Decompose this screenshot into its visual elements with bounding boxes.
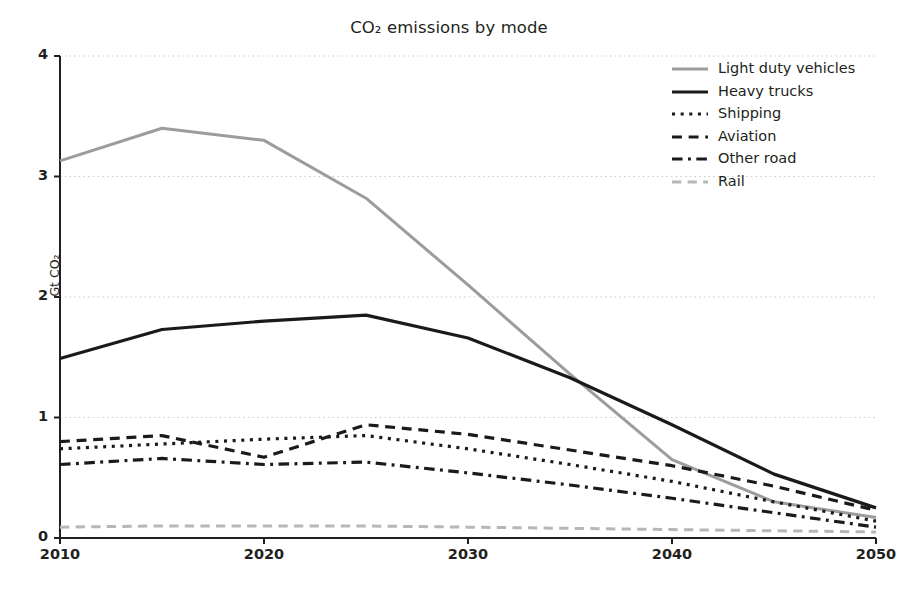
legend-line-swatch-icon xyxy=(672,174,708,188)
legend-item-label: Aviation xyxy=(718,129,776,144)
series-line-aviation xyxy=(60,425,876,511)
chart-figure: CO₂ emissions by mode Gt CO₂ 01234 20102… xyxy=(0,0,898,590)
y-tick-label: 2 xyxy=(18,287,48,303)
y-tick-label: 0 xyxy=(18,528,48,544)
y-tick-label: 1 xyxy=(18,408,48,424)
legend-line-swatch-icon xyxy=(672,106,708,120)
legend-line-swatch-icon xyxy=(672,129,708,143)
x-tick-label: 2050 xyxy=(841,546,898,562)
legend-item-shipping[interactable]: Shipping xyxy=(672,102,887,125)
legend-line-swatch-icon xyxy=(672,84,708,98)
legend-item-label: Other road xyxy=(718,151,796,166)
legend-item-rail[interactable]: Rail xyxy=(672,170,887,193)
legend-line-swatch-icon xyxy=(672,61,708,75)
series-line-rail xyxy=(60,526,876,532)
x-tick-label: 2030 xyxy=(433,546,503,562)
x-tick-label: 2020 xyxy=(229,546,299,562)
legend-item-label: Light duty vehicles xyxy=(718,61,855,76)
legend-item-heavy-trucks[interactable]: Heavy trucks xyxy=(672,80,887,103)
series-line-heavy-trucks xyxy=(60,315,876,508)
x-tick-label: 2010 xyxy=(25,546,95,562)
legend-item-label: Shipping xyxy=(718,106,781,121)
legend-item-label: Heavy trucks xyxy=(718,84,813,99)
legend-item-aviation[interactable]: Aviation xyxy=(672,125,887,148)
legend-line-swatch-icon xyxy=(672,151,708,165)
legend-item-other-road[interactable]: Other road xyxy=(672,147,887,170)
legend-item-light-duty-vehicles[interactable]: Light duty vehicles xyxy=(672,57,887,80)
legend-item-label: Rail xyxy=(718,174,745,189)
y-tick-label: 4 xyxy=(18,46,48,62)
y-tick-label: 3 xyxy=(18,167,48,183)
x-tick-label: 2040 xyxy=(637,546,707,562)
chart-legend: Light duty vehiclesHeavy trucksShippingA… xyxy=(672,57,887,192)
series-line-shipping xyxy=(60,436,876,522)
